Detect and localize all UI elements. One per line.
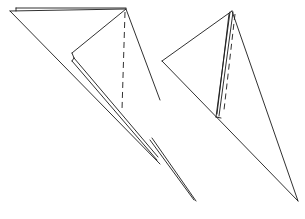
fold-edge-line — [219, 12, 233, 116]
fold-edge-line — [152, 138, 196, 201]
fold-edge-line — [162, 61, 298, 201]
fold-edge-line — [72, 58, 74, 61]
origami-diagram — [0, 0, 305, 219]
fold-edge-line — [10, 11, 160, 164]
fold-edge-line — [126, 9, 160, 100]
fold-edge-line — [72, 61, 157, 160]
left-figure — [10, 8, 160, 164]
fold-edge-line — [232, 11, 298, 201]
fold-edge-line — [74, 58, 158, 157]
right-figure — [150, 11, 298, 201]
valley-fold-line — [122, 12, 125, 110]
fold-edge-line — [217, 14, 229, 114]
fold-edge-line — [10, 9, 126, 11]
fold-edge-line — [72, 53, 74, 58]
valley-fold-line — [224, 14, 235, 110]
fold-edge-line — [150, 140, 194, 200]
fold-edge-line — [72, 9, 126, 53]
fold-edge-line — [162, 11, 232, 61]
